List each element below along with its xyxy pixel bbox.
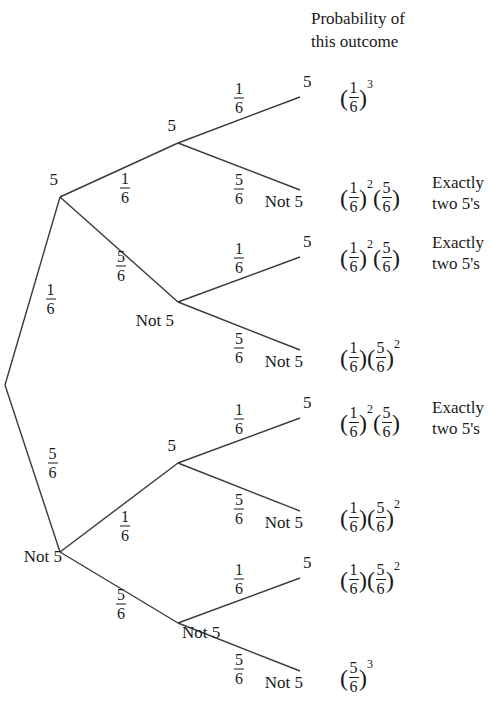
fraction-numerator: 1	[349, 562, 359, 579]
open-paren: (	[373, 246, 381, 270]
fraction-numerator: 5	[116, 248, 126, 265]
fraction-denominator: 6	[234, 669, 244, 687]
fraction-numerator: 5	[382, 240, 392, 257]
fraction-numerator: 1	[349, 340, 359, 357]
probability-term: (56)	[373, 405, 400, 440]
close-paren: )	[386, 506, 394, 530]
branch-prob-branch-not5: 56	[48, 445, 58, 480]
fraction-denominator: 6	[234, 578, 244, 596]
fraction-numerator: 5	[376, 500, 386, 517]
probability-term: (16)3	[340, 80, 373, 115]
outcome-note: Exactlytwo 5's	[432, 232, 484, 275]
fraction-numerator: 5	[234, 652, 244, 669]
fraction-denominator: 6	[234, 348, 244, 366]
branch-line-branch-5-5	[60, 143, 178, 197]
fraction-denominator: 6	[116, 603, 126, 621]
term-fraction: 56	[376, 340, 386, 375]
fraction-denominator: 6	[48, 462, 58, 480]
close-paren: )	[359, 666, 367, 690]
fraction-numerator: 5	[234, 171, 244, 188]
probability-term: (56)	[373, 240, 400, 275]
fraction-denominator: 6	[116, 265, 126, 283]
close-paren: )	[392, 246, 400, 270]
node-label-branch-5-5: 5	[168, 117, 177, 134]
leaf-label-leaf-5: 5	[303, 394, 312, 411]
outcome-note-line2: two 5's	[432, 193, 484, 214]
exponent: 2	[394, 498, 400, 510]
fraction-denominator: 6	[234, 257, 244, 275]
fraction-numerator: 5	[234, 492, 244, 509]
term-fraction: 56	[382, 240, 392, 275]
fraction-denominator: 6	[349, 579, 359, 597]
term-fraction: 16	[349, 340, 359, 375]
probability-term: (16)	[340, 340, 367, 375]
fraction-numerator: 1	[349, 405, 359, 422]
exponent: 3	[367, 78, 373, 90]
term-fraction: 16	[349, 562, 359, 597]
term-fraction: 16	[349, 180, 359, 215]
close-paren: )	[359, 506, 367, 530]
branch-prob-branch-not5-5: 16	[120, 508, 130, 543]
fraction-denominator: 6	[234, 188, 244, 206]
column-header-line1: Probability of	[311, 8, 481, 31]
leaf-label-leaf-4: Not 5	[265, 353, 303, 370]
probability-term: (16)2	[340, 180, 373, 215]
probability-term: (16)	[340, 562, 367, 597]
close-paren: )	[392, 411, 400, 435]
open-paren: (	[367, 568, 375, 592]
outcome-note-line1: Exactly	[432, 172, 484, 193]
fraction-numerator: 1	[120, 508, 130, 525]
branch-prob-leaf-4: 56	[234, 331, 244, 366]
probability-term: (56)	[373, 180, 400, 215]
fraction-numerator: 1	[349, 500, 359, 517]
branch-prob-leaf-1: 16	[234, 81, 244, 116]
fraction-denominator: 6	[349, 517, 359, 535]
probability-term: (56)2	[367, 562, 400, 597]
node-label-branch-not5: Not 5	[24, 548, 62, 565]
open-paren: (	[367, 346, 375, 370]
fraction-numerator: 5	[116, 586, 126, 603]
close-paren: )	[359, 568, 367, 592]
term-fraction: 16	[349, 405, 359, 440]
fraction-denominator: 6	[382, 422, 392, 440]
term-fraction: 16	[349, 240, 359, 275]
tree-branches	[0, 0, 504, 705]
fraction-numerator: 5	[376, 340, 386, 357]
fraction-numerator: 5	[376, 562, 386, 579]
fraction-numerator: 1	[234, 561, 244, 578]
outcome-expression: (16)3	[340, 80, 373, 115]
term-fraction: 56	[382, 180, 392, 215]
open-paren: (	[340, 568, 348, 592]
close-paren: )	[359, 246, 367, 270]
fraction-numerator: 1	[349, 240, 359, 257]
fraction-denominator: 6	[376, 357, 386, 375]
probability-tree-diagram: Probability of this outcome 5Not 55Not 5…	[0, 0, 504, 705]
branch-prob-leaf-3: 16	[234, 240, 244, 275]
fraction-denominator: 6	[120, 525, 130, 543]
outcome-expression: (56)3	[340, 660, 373, 695]
probability-term: (16)2	[340, 240, 373, 275]
branch-prob-leaf-7: 16	[234, 561, 244, 596]
fraction-numerator: 1	[120, 171, 130, 188]
outcome-expression: (16)(56)2	[340, 562, 400, 597]
outcome-note-line1: Exactly	[432, 397, 484, 418]
close-paren: )	[359, 346, 367, 370]
node-label-branch-not5-not5: Not 5	[182, 624, 220, 641]
open-paren: (	[373, 411, 381, 435]
branch-prob-branch-5-5: 16	[120, 171, 130, 206]
term-fraction: 56	[376, 500, 386, 535]
fraction-denominator: 6	[349, 357, 359, 375]
term-fraction: 56	[349, 660, 359, 695]
close-paren: )	[359, 411, 367, 435]
open-paren: (	[340, 506, 348, 530]
leaf-label-leaf-2: Not 5	[265, 193, 303, 210]
fraction-numerator: 1	[349, 80, 359, 97]
fraction-denominator: 6	[349, 197, 359, 215]
probability-term: (16)2	[340, 405, 373, 440]
probability-term: (16)	[340, 500, 367, 535]
probability-term: (56)3	[340, 660, 373, 695]
exponent: 3	[367, 658, 373, 670]
term-fraction: 56	[376, 562, 386, 597]
fraction-numerator: 5	[382, 180, 392, 197]
fraction-denominator: 6	[234, 509, 244, 527]
